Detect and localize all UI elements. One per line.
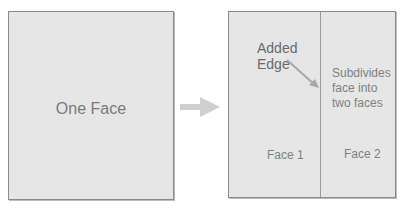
face-2-label: Face 2 <box>344 147 381 161</box>
face-1-label: Face 1 <box>267 148 304 162</box>
two-faces-box: Added Edge Subdivides face into two face… <box>228 11 396 198</box>
subdivides-description: Subdivides face into two faces <box>332 66 394 111</box>
